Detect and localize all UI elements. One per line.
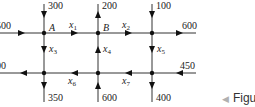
var-x7: x7 [121,75,130,88]
var-x4: x4 [102,43,111,56]
arrow-up-icon [95,82,101,89]
var-x5: x5 [156,43,165,56]
var-x3: x3 [48,43,57,56]
arrow-right-icon [18,30,25,36]
var-x6: x6 [67,75,76,88]
arrow-down-icon [149,82,155,89]
node-label-B: B [103,22,109,33]
flow-left-bottom: 400 [0,60,6,71]
node-E [96,71,100,75]
node-B [96,31,100,35]
arrow-down-icon [149,11,155,18]
node-D [42,71,46,75]
node-label-A: A [48,22,56,33]
traffic-network-diagram: A B 500 300 200 100 600 450 400 350 600 … [0,0,255,107]
flow-right-bottom: 450 [180,60,195,71]
arrow-down-icon [41,82,47,89]
flow-bottom-F: 400 [156,92,171,103]
triangle-left-icon: ◀ [222,94,229,104]
flow-right-top: 600 [182,20,197,31]
flow-bottom-E: 600 [102,92,117,103]
flow-left-top: 500 [0,20,11,31]
node-C [150,31,154,35]
arrow-down-icon [41,11,47,18]
figure-caption-text: Figu [233,91,255,105]
var-x1: x1 [68,19,77,32]
flow-top-B: 200 [102,0,117,11]
flow-top-A: 300 [48,0,63,11]
arrow-up-icon [95,11,101,18]
figure-caption-link[interactable]: ◀Figu [222,91,255,105]
flow-top-C: 100 [156,0,171,11]
node-F [150,71,154,75]
arrow-down-icon [149,46,155,53]
arrow-down-icon [41,46,47,53]
var-x2: x2 [121,19,130,32]
node-A [42,31,46,35]
arrow-left-icon [20,70,27,76]
arrow-up-icon [95,46,101,53]
flow-bottom-D: 350 [48,92,63,103]
